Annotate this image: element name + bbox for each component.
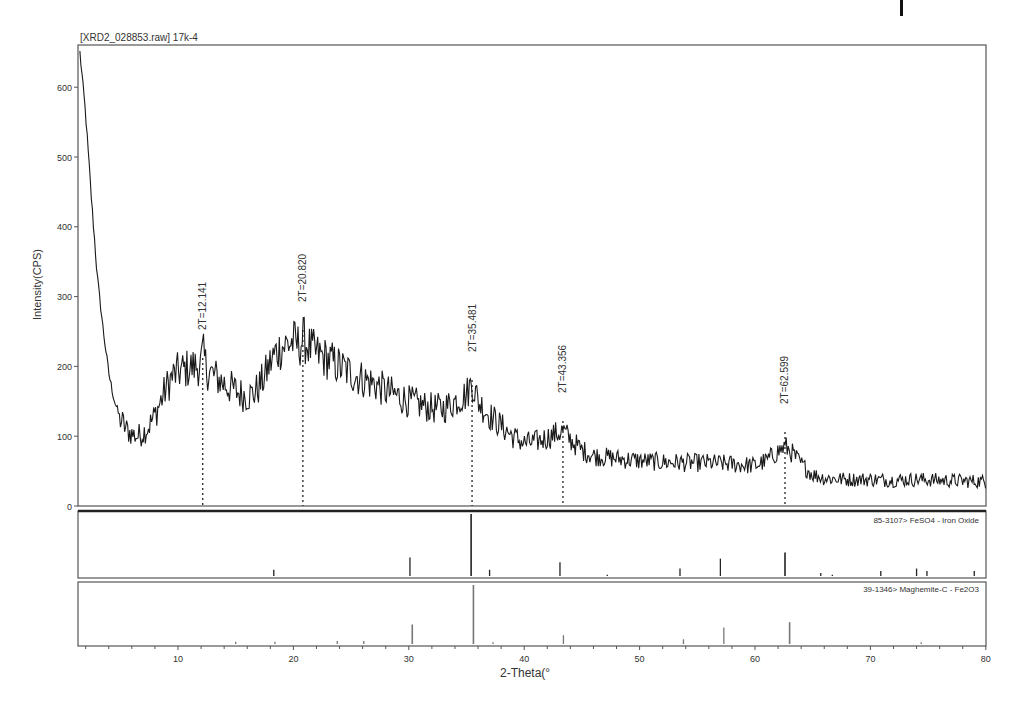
peak-annotations: 2T=12.1412T=20.8202T=35.4812T=43.3562T=6… <box>197 253 790 506</box>
svg-text:500: 500 <box>57 153 72 163</box>
svg-text:20: 20 <box>288 654 298 664</box>
svg-text:50: 50 <box>635 654 645 664</box>
svg-text:0: 0 <box>67 502 72 512</box>
svg-text:2T=62.599: 2T=62.599 <box>779 355 790 404</box>
svg-text:80: 80 <box>981 654 991 664</box>
svg-text:2T=12.141: 2T=12.141 <box>197 281 208 330</box>
xrd-chart: [XRD2_028853.raw] 17k-4 0100200300400500… <box>0 0 1019 713</box>
xrd-spectrum-line <box>80 51 986 488</box>
svg-text:600: 600 <box>57 83 72 93</box>
svg-text:60: 60 <box>750 654 760 664</box>
svg-text:300: 300 <box>57 292 72 302</box>
svg-text:200: 200 <box>57 362 72 372</box>
svg-text:70: 70 <box>865 654 875 664</box>
ref2-label: 39-1346> Maghemite-C - Fe2O3 <box>863 585 979 594</box>
ref1-sticks <box>274 514 974 576</box>
ref2-panel-frame <box>78 582 986 646</box>
ref1-panel-frame <box>78 511 986 578</box>
svg-text:2T=20.820: 2T=20.820 <box>297 253 308 302</box>
x-axis-label: 2-Theta(° <box>500 666 550 680</box>
svg-text:2T=43.356: 2T=43.356 <box>557 344 568 393</box>
x-axis-ticks: 1020304050607080 <box>86 646 991 664</box>
svg-text:10: 10 <box>173 654 183 664</box>
svg-text:400: 400 <box>57 222 72 232</box>
svg-text:100: 100 <box>57 432 72 442</box>
y-axis-label: Intensity(CPS) <box>31 249 43 320</box>
ref1-label: 85-3107> FeSO4 - Iron Oxide <box>873 516 979 525</box>
plot-title: [XRD2_028853.raw] 17k-4 <box>80 32 198 43</box>
svg-text:2T=35.481: 2T=35.481 <box>467 303 478 352</box>
y-axis-ticks: 0100200300400500600 <box>57 83 78 512</box>
svg-text:30: 30 <box>404 654 414 664</box>
ref2-sticks <box>236 585 921 644</box>
svg-text:40: 40 <box>519 654 529 664</box>
